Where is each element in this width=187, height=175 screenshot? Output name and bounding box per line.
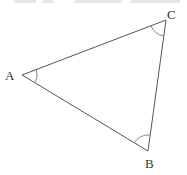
- side-bc: [148, 20, 166, 151]
- angle-arc-a: [35, 70, 37, 83]
- angle-arc-b: [134, 135, 150, 143]
- vertex-label-a: A: [5, 68, 15, 83]
- angle-marks: [35, 26, 164, 143]
- angle-arc-c: [151, 26, 164, 36]
- side-ac: [22, 20, 166, 75]
- triangle: [22, 20, 166, 151]
- side-ab: [22, 75, 148, 151]
- triangle-diagram: A B C: [0, 0, 187, 175]
- vertex-label-b: B: [145, 156, 154, 171]
- cropped-header-remnant: [14, 0, 180, 3]
- vertex-label-c: C: [167, 7, 176, 22]
